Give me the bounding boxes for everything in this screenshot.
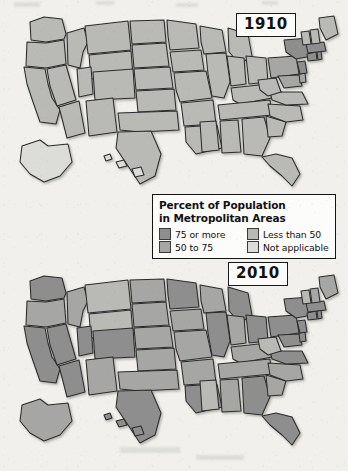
state-ks	[136, 89, 176, 112]
state-mt	[85, 21, 131, 54]
state-wi	[200, 26, 226, 54]
state-md	[278, 75, 302, 88]
year-label-1910: 1910	[236, 13, 296, 37]
state-fl	[262, 154, 300, 186]
legend-label-p75plus: 75 or more	[175, 229, 225, 240]
choropleth-svg-2010	[0, 258, 348, 468]
state-mo	[174, 71, 212, 102]
legend-item-p75plus: 75 or more	[159, 228, 241, 240]
legend-item-na: Not applicable	[247, 241, 329, 253]
state-pa	[268, 56, 299, 78]
state-vt	[301, 31, 311, 45]
state-sd	[132, 302, 169, 327]
state-nd	[130, 20, 166, 44]
legend-title-line-2: in Metropolitan Areas	[159, 212, 329, 225]
state-az	[59, 360, 85, 397]
legend-item-p50to75: 50 to 75	[159, 241, 241, 253]
choropleth-svg-1910	[0, 6, 348, 202]
legend-swatch-p75plus	[159, 228, 171, 240]
state-pa	[268, 315, 299, 337]
state-ga	[242, 117, 270, 156]
state-or	[26, 40, 66, 68]
state-ga	[242, 376, 270, 415]
state-ut	[77, 326, 93, 356]
state-al	[220, 120, 241, 153]
state-nd	[130, 279, 166, 303]
state-ms	[200, 121, 219, 152]
legend-swatch-grid: 75 or moreLess than 5050 to 75Not applic…	[159, 228, 329, 253]
state-co	[93, 69, 135, 100]
state-me	[319, 275, 338, 299]
legend-label-na: Not applicable	[263, 242, 329, 253]
legend-swatch-na	[247, 241, 259, 253]
state-ne	[134, 326, 173, 349]
state-ia	[170, 309, 204, 331]
state-vt	[301, 290, 311, 304]
state-wa	[30, 276, 66, 301]
map-panel-2010	[0, 258, 348, 468]
state-ut	[77, 67, 93, 97]
state-ia	[170, 50, 204, 72]
state-az	[59, 101, 85, 138]
state-md	[278, 334, 302, 347]
state-ks	[136, 348, 176, 371]
legend-label-p50to75: 50 to 75	[175, 242, 213, 253]
state-me	[319, 16, 338, 40]
map-panel-1910	[0, 6, 348, 202]
legend-label-lt50: Less than 50	[263, 229, 321, 240]
state-mt	[85, 280, 131, 313]
legend-swatch-p50to75	[159, 241, 171, 253]
state-ms	[200, 380, 219, 411]
map-legend: Percent of Population in Metropolitan Ar…	[152, 194, 336, 259]
state-nm	[86, 357, 117, 395]
year-label-2010: 2010	[228, 262, 288, 286]
state-al	[220, 379, 241, 412]
state-co	[93, 328, 135, 359]
state-mo	[174, 330, 212, 361]
state-wi	[200, 285, 226, 313]
state-nm	[86, 98, 117, 136]
state-ak	[20, 399, 72, 441]
state-wa	[30, 17, 66, 42]
state-ak	[20, 140, 72, 182]
legend-item-lt50: Less than 50	[247, 228, 329, 240]
state-id	[67, 287, 88, 327]
state-or	[26, 299, 66, 327]
state-mn	[167, 279, 199, 309]
legend-swatch-lt50	[247, 228, 259, 240]
state-nh	[310, 288, 320, 303]
state-nh	[310, 29, 320, 44]
state-id	[67, 28, 88, 68]
state-ne	[134, 67, 173, 90]
state-ok	[118, 111, 179, 132]
state-ok	[118, 370, 179, 391]
legend-title-line-1: Percent of Population	[159, 199, 329, 212]
state-mn	[167, 20, 199, 50]
state-fl	[262, 413, 300, 445]
state-sd	[132, 43, 169, 68]
